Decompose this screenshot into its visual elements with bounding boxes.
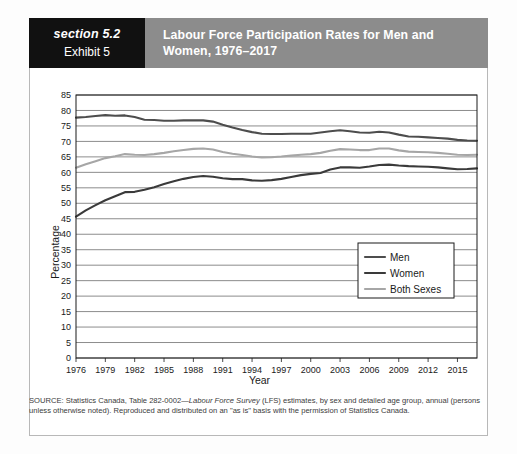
exhibit-number: Exhibit 5 [64,44,110,60]
title-block: Labour Force Participation Rates for Men… [145,18,488,68]
exhibit-figure: section 5.2 Exhibit 5 Labour Force Parti… [0,0,517,454]
svg-text:35: 35 [61,245,71,255]
section-number: section 5.2 [54,27,121,42]
chart-legend: MenWomenBoth Sexes [358,243,454,298]
source-note: SOURCE: Statistics Canada, Table 282-000… [29,396,484,417]
svg-text:40: 40 [61,229,71,239]
svg-text:45: 45 [61,214,71,224]
svg-text:0: 0 [66,353,71,363]
y-axis-label: Percentage [49,197,61,307]
svg-text:70: 70 [61,137,71,147]
svg-text:5: 5 [66,338,71,348]
exhibit-header: section 5.2 Exhibit 5 Labour Force Parti… [29,18,488,68]
svg-text:55: 55 [61,183,71,193]
x-axis-ticks [76,358,457,362]
svg-text:30: 30 [61,260,71,270]
svg-text:75: 75 [61,121,71,131]
svg-text:Women: Women [390,268,424,279]
svg-text:Both Sexes: Both Sexes [390,284,441,295]
y-axis-tick-labels: 0510152025303540455055606570758085 [61,90,71,363]
plot-area: 0510152025303540455055606570758085 19761… [30,68,489,436]
source-publication: Labour Force Survey [189,396,260,405]
svg-text:50: 50 [61,198,71,208]
data-series-lines [76,115,477,216]
section-block: section 5.2 Exhibit 5 [29,18,145,68]
svg-text:Men: Men [390,252,409,263]
svg-text:10: 10 [61,322,71,332]
svg-text:65: 65 [61,152,71,162]
svg-text:20: 20 [61,291,71,301]
svg-text:80: 80 [61,106,71,116]
svg-text:85: 85 [61,90,71,100]
chart-panel: 0510152025303540455055606570758085 19761… [29,68,488,436]
exhibit-title: Labour Force Participation Rates for Men… [145,27,488,59]
x-axis-label: Year [30,374,489,386]
svg-text:25: 25 [61,276,71,286]
svg-text:15: 15 [61,307,71,317]
svg-text:60: 60 [61,168,71,178]
source-prefix: SOURCE: Statistics Canada, Table 282-000… [29,396,189,405]
